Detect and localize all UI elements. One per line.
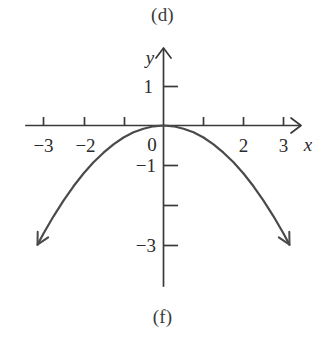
x-axis-label: x — [303, 134, 313, 155]
y-tick-label-pos1: 1 — [144, 76, 154, 97]
y-axis-label: y — [144, 47, 155, 68]
figure-container: (d) — [0, 0, 325, 343]
x-tick-label-pos2: 2 — [239, 135, 249, 156]
origin-label: 0 — [147, 134, 157, 155]
x-tick-label-neg2: −2 — [75, 135, 95, 156]
x-tick-label-pos3: 3 — [279, 135, 289, 156]
x-tick-label-neg3: −3 — [33, 135, 53, 156]
figure-caption-top: (d) — [0, 4, 325, 26]
y-tick-label-neg3: −3 — [136, 235, 156, 256]
plot-area: −3 −2 2 3 1 −1 −3 0 x y — [0, 28, 325, 303]
y-tick-label-neg1: −1 — [136, 155, 156, 176]
coordinate-plot-svg: −3 −2 2 3 1 −1 −3 0 x y — [0, 28, 325, 303]
figure-caption-bottom: (f) — [0, 306, 325, 328]
